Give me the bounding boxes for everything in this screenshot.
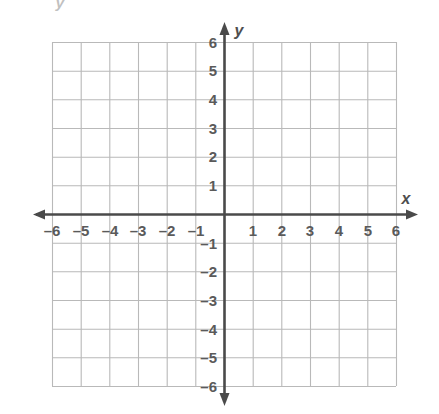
y-axis-top-arrowhead: [220, 22, 230, 35]
y-axis-label: y: [234, 22, 245, 39]
coordinate-plane-figure: –6 –5 –4 –3 –2 –1 1 2 3 4 5 6 6 5 4 3 2 …: [0, 0, 439, 414]
x-tick-label--4: –4: [102, 222, 119, 239]
scan-artifact-glyph: y: [55, 0, 65, 11]
x-tick-label-1: 1: [249, 222, 257, 239]
x-tick-label-5: 5: [364, 222, 372, 239]
x-tick-label--6: –6: [44, 222, 61, 239]
x-tick-label-6: 6: [392, 222, 400, 239]
y-tick-label-5: 5: [209, 62, 217, 79]
x-tick-label-4: 4: [335, 222, 344, 239]
y-tick-label--4: –4: [200, 321, 217, 338]
y-axis-bottom-arrowhead: [220, 393, 230, 406]
y-tick-label-1: 1: [209, 177, 217, 194]
y-tick-label-6: 6: [209, 34, 217, 51]
x-tick-label-2: 2: [278, 222, 286, 239]
x-tick-label-3: 3: [306, 222, 314, 239]
x-axis-label: x: [401, 190, 412, 207]
y-tick-label--2: –2: [200, 263, 217, 280]
y-tick-label--5: –5: [200, 349, 217, 366]
x-axis-left-arrowhead: [33, 210, 45, 220]
y-tick-label--1: –1: [200, 235, 217, 252]
x-axis-right-arrowhead: [406, 210, 418, 220]
x-tick-label--5: –5: [73, 222, 90, 239]
x-tick-label--3: –3: [130, 222, 147, 239]
coordinate-grid-svg: –6 –5 –4 –3 –2 –1 1 2 3 4 5 6 6 5 4 3 2 …: [0, 0, 439, 414]
x-tick-label--2: –2: [159, 222, 176, 239]
y-tick-label-2: 2: [209, 148, 217, 165]
y-tick-label-4: 4: [209, 91, 218, 108]
y-tick-label-3: 3: [209, 120, 217, 137]
y-tick-label--3: –3: [200, 292, 217, 309]
y-tick-label--6: –6: [200, 378, 217, 395]
